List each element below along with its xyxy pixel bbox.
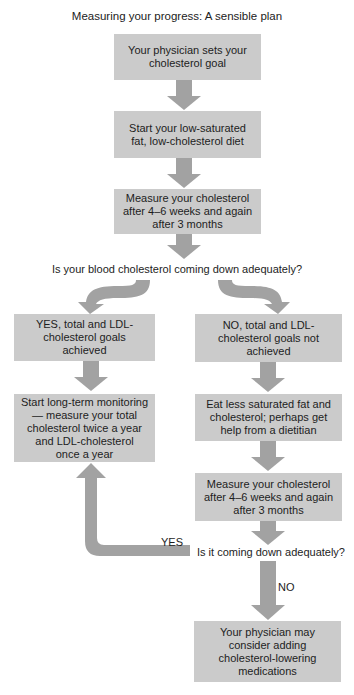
step-medications: Your physician may consider adding chole… [194,621,341,682]
step-set-goal: Your physician sets your cholesterol goa… [114,34,261,80]
arrow-down-icon [167,80,201,110]
curved-arrow-right-icon [218,280,290,314]
arrow-down-icon [251,521,285,545]
arrow-down-icon [74,361,108,391]
branch-yes: YES, total and LDL- cholesterol goals ac… [14,314,155,361]
arrow-down-icon [251,441,285,471]
step-long-term-monitoring: Start long-term monitoring — measure you… [14,394,155,462]
edge-label-no: NO [278,581,295,593]
branch-no: NO, total and LDL- cholesterol goals not… [195,314,342,362]
decision-question-2: Is it coming down adequately? [197,546,345,558]
step-measure-1: Measure your cholesterol after 4–6 weeks… [114,189,261,234]
curved-arrow-left-icon [78,280,150,314]
arrow-down-icon [251,362,285,392]
step-measure-2: Measure your cholesterol after 4–6 weeks… [195,473,342,521]
step-eat-less: Eat less saturated fat and cholesterol; … [195,394,342,441]
decision-question-1: Is your blood cholesterol coming down ad… [0,263,354,275]
arrow-down-icon [167,158,201,188]
edge-label-yes: YES [161,536,183,548]
step-start-diet: Start your low-saturated fat, low-choles… [114,111,261,158]
arrow-down-icon [167,234,201,259]
